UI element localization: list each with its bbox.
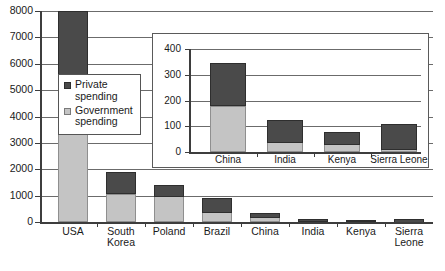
bar-segment-private	[381, 124, 417, 150]
y-axis-tick-label: 4000	[10, 110, 33, 122]
legend-swatch-gov-icon	[64, 108, 71, 115]
main-chart-x-axis-line	[40, 222, 433, 224]
gridline	[40, 196, 433, 197]
y-axis-tick-label: 1000	[10, 189, 33, 201]
bar-segment-government	[210, 106, 246, 152]
y-axis-tick-label: 3000	[10, 136, 33, 148]
inset-chart-y-axis-line	[189, 49, 191, 153]
legend-entry: Government spending	[64, 105, 136, 129]
gridline	[40, 11, 433, 12]
inset-bar-chart: 0100200300400 ChinaIndiaKenyaSierra Leon…	[152, 33, 429, 168]
bar-segment-private	[154, 185, 184, 197]
bar-segment-government	[154, 196, 184, 222]
bar-segment-private	[324, 132, 360, 145]
y-axis-tick-label: 400	[164, 43, 181, 54]
chart-figure: 010002000300040005000600070008000 USASou…	[0, 0, 445, 271]
bar-segment-government	[324, 144, 360, 152]
x-axis-category-label: Sierra Leone	[365, 155, 434, 166]
chart-legend: Private spendingGovernment spending	[58, 74, 141, 135]
y-axis-tick-label: 0	[27, 215, 33, 227]
bar-segment-government	[106, 194, 136, 222]
y-axis-tick-label: 6000	[10, 57, 33, 69]
bar-segment-private	[250, 213, 280, 218]
y-axis-tick-label: 100	[164, 120, 181, 131]
legend-entry: Private spending	[64, 79, 136, 103]
bar-segment-private	[106, 172, 136, 194]
bar-segment-government	[202, 212, 232, 222]
y-axis-tick-label: 300	[164, 69, 181, 80]
gridline	[189, 49, 421, 50]
y-axis-tick-label: 200	[164, 95, 181, 106]
bar-segment-government	[58, 122, 88, 222]
y-axis-tick-label: 8000	[10, 4, 33, 16]
legend-label: Private spending	[75, 79, 118, 103]
main-chart-y-axis-line	[40, 11, 42, 223]
legend-swatch-private-icon	[64, 82, 71, 89]
y-axis-tick-label: 7000	[10, 30, 33, 42]
bar-segment-government	[267, 142, 303, 152]
bar-segment-private	[267, 120, 303, 143]
gridline	[40, 169, 433, 170]
bar-segment-private	[202, 198, 232, 213]
y-axis-tick-label: 0	[175, 146, 181, 157]
x-axis-category-label: Sierra Leone	[379, 226, 439, 249]
legend-label: Government spending	[75, 105, 133, 129]
y-axis-tick-label: 5000	[10, 83, 33, 95]
y-axis-tick-label: 2000	[10, 162, 33, 174]
bar-segment-private	[210, 63, 246, 106]
inset-chart-x-axis-line	[189, 152, 421, 154]
